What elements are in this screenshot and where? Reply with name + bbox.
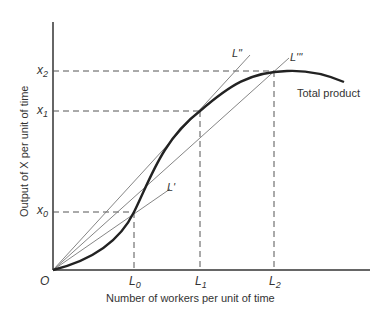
- rays: [53, 55, 289, 270]
- x-tick-l1: L1: [195, 274, 207, 290]
- curve-label: Total product: [297, 87, 360, 99]
- total-product-diagram: O L0 L1 L2 x0 x1 x2 L' L" L''' Total pro…: [0, 0, 391, 320]
- ray-l-triple-prime: [53, 58, 289, 270]
- x-tick-l0: L0: [129, 274, 141, 290]
- ray-label-l-prime: L': [167, 181, 176, 193]
- x-tick-l2: L2: [269, 274, 281, 290]
- ray-label-l-triple-prime: L''': [290, 51, 303, 63]
- x-axis-label: Number of workers per unit of time: [106, 292, 275, 304]
- ray-l-double-prime: [53, 55, 250, 270]
- y-axis-label: Output of X per unit of time: [18, 86, 30, 217]
- origin-label: O: [40, 274, 49, 288]
- y-tick-x1: x1: [36, 103, 48, 119]
- y-tick-x0: x0: [36, 203, 48, 219]
- y-tick-x2: x2: [36, 63, 48, 79]
- ray-label-l-double-prime: L": [232, 47, 243, 59]
- ray-l-prime: [53, 189, 170, 270]
